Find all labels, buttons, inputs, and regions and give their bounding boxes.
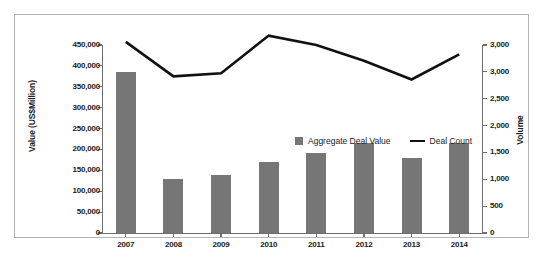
x-axis-tick-label: 2009	[198, 240, 244, 249]
legend-label-deal-count: Deal Count	[430, 136, 473, 146]
line-swatch-icon	[410, 140, 425, 142]
y-axis-right-tick	[483, 232, 487, 233]
y-axis-right-tick	[483, 152, 487, 153]
y-axis-right-tick	[483, 206, 487, 207]
y-axis-left-tick-label: 50,000	[40, 207, 100, 216]
y-axis-right-tick-label: 1,500	[490, 147, 540, 156]
legend-item-aggregate-deal-value: Aggregate Deal Value	[295, 136, 391, 146]
y-axis-right-tick-label: 1,000	[490, 174, 540, 183]
x-axis-tick	[459, 233, 460, 237]
y-axis-right-tick-label: 3,000	[490, 67, 540, 76]
y-axis-left-tick-label: 150,000	[40, 165, 100, 174]
y-axis-right-tick	[483, 44, 487, 45]
y-axis-left-tick-label: 450,000	[40, 40, 100, 49]
x-axis-tick-label: 2007	[103, 240, 149, 249]
plot-area: 050,000100,000150,000200,000250,000300,0…	[102, 45, 483, 233]
x-axis-tick	[316, 233, 317, 237]
y-axis-left-title: Value (US$Million)	[27, 66, 37, 166]
y-axis-left-tick-label: 400,000	[40, 61, 100, 70]
legend-label-aggregate-deal-value: Aggregate Deal Value	[308, 136, 391, 146]
x-axis-tick	[220, 233, 221, 237]
y-axis-right-tick-label: 0	[490, 228, 540, 237]
chart-legend: Aggregate Deal Value Deal Count	[295, 136, 472, 146]
y-axis-left-tick-label: 200,000	[40, 144, 100, 153]
legend-item-deal-count: Deal Count	[410, 136, 473, 146]
y-axis-left-tick-label: 250,000	[40, 124, 100, 133]
x-axis-tick-label: 2013	[389, 240, 435, 249]
x-axis-tick-label: 2008	[150, 240, 196, 249]
x-axis-tick-label: 2010	[246, 240, 292, 249]
square-swatch-icon	[295, 137, 303, 145]
y-axis-right-tick	[483, 98, 487, 99]
y-axis-right-tick-label: 500	[490, 201, 540, 210]
y-axis-right-tick-label: 2,000	[490, 121, 540, 130]
x-axis-tick-label: 2014	[436, 240, 482, 249]
x-axis-tick-label: 2012	[341, 240, 387, 249]
deal-count-polyline	[126, 36, 459, 80]
x-axis-tick	[363, 233, 364, 237]
y-axis-right-tick-label: 3,000	[490, 40, 540, 49]
y-axis-right-tick	[483, 125, 487, 126]
chart-frame: Value (US$Million) Volume 050,000100,000…	[14, 14, 529, 238]
y-axis-left-tick-label: 100,000	[40, 186, 100, 195]
y-axis-right-tick	[483, 71, 487, 72]
x-axis-tick	[411, 233, 412, 237]
y-axis-left-tick-label: 350,000	[40, 82, 100, 91]
y-axis-right-tick	[483, 179, 487, 180]
x-axis-line	[102, 233, 483, 234]
x-axis-tick	[268, 233, 269, 237]
x-axis-tick-label: 2011	[293, 240, 339, 249]
y-axis-left-tick-label: 0	[40, 228, 100, 237]
x-axis-tick	[125, 233, 126, 237]
y-axis-left-tick-label: 300,000	[40, 103, 100, 112]
chart-figure: Value (US$Million) Volume 050,000100,000…	[0, 0, 546, 257]
x-axis-tick	[173, 233, 174, 237]
y-axis-right-tick-label: 2,500	[490, 94, 540, 103]
